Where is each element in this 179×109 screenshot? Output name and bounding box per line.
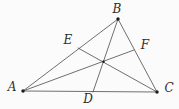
cevian-intersection-dot (102, 61, 104, 63)
vertex-dot-A (21, 89, 24, 92)
screenshot-root: ABCDEF (0, 0, 179, 109)
point-label-A: A (7, 80, 17, 94)
segment-BD (93, 19, 118, 92)
vertex-dot-B (116, 17, 119, 20)
point-label-E: E (63, 33, 73, 47)
segment-AB (23, 19, 118, 91)
point-label-B: B (112, 2, 122, 16)
segment-AF (23, 50, 134, 91)
geometry-diagram: ABCDEF (0, 0, 179, 109)
point-label-D: D (82, 92, 93, 106)
point-label-F: F (140, 38, 150, 52)
point-label-C: C (164, 81, 173, 95)
vertex-dot-C (155, 90, 158, 93)
